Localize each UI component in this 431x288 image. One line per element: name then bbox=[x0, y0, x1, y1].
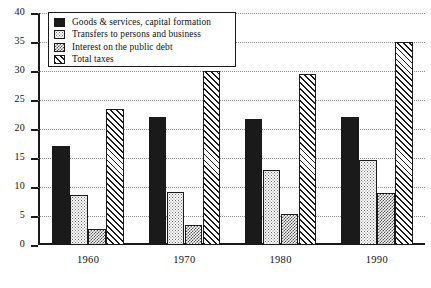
bar bbox=[167, 192, 185, 245]
legend: Goods & services, capital formationTrans… bbox=[48, 12, 236, 67]
bar bbox=[299, 74, 317, 245]
y-axis-tick-mark bbox=[31, 187, 38, 189]
y-axis-tick-mark bbox=[31, 158, 38, 160]
y-axis-tick-mark bbox=[31, 13, 38, 15]
y-axis-tick-label: 30 bbox=[15, 64, 25, 75]
bar bbox=[203, 71, 221, 245]
bar bbox=[341, 117, 359, 245]
legend-item: Total taxes bbox=[54, 54, 231, 66]
y-axis-tick-mark bbox=[31, 129, 38, 131]
bar bbox=[70, 195, 88, 245]
bar bbox=[263, 170, 281, 245]
legend-swatch-icon bbox=[54, 18, 65, 27]
bar bbox=[359, 160, 377, 245]
y-axis-tick-label: 20 bbox=[15, 122, 25, 133]
y-axis-tick-mark bbox=[31, 216, 38, 218]
y-axis-tick-label: 15 bbox=[15, 151, 25, 162]
x-axis-tick-label: 1980 bbox=[251, 254, 311, 265]
legend-item: Interest on the public debt bbox=[54, 41, 231, 53]
y-axis-tick-label: 5 bbox=[20, 209, 25, 220]
y-axis-tick-label: 40 bbox=[15, 6, 25, 17]
x-axis-tick-label: 1960 bbox=[58, 254, 118, 265]
bar bbox=[185, 225, 203, 245]
x-axis-tick-label: 1990 bbox=[347, 254, 407, 265]
legend-swatch-icon bbox=[54, 43, 65, 52]
bar-group bbox=[245, 13, 317, 245]
bar bbox=[52, 146, 70, 245]
bar bbox=[377, 193, 395, 245]
bar bbox=[395, 42, 413, 245]
legend-item: Goods & services, capital formation bbox=[54, 16, 231, 28]
y-axis-tick-label: 0 bbox=[20, 238, 25, 249]
y-axis-tick-mark bbox=[31, 100, 38, 102]
y-axis-tick-label: 10 bbox=[15, 180, 25, 191]
legend-item-label: Transfers to persons and business bbox=[72, 29, 201, 40]
legend-item-label: Goods & services, capital formation bbox=[72, 17, 211, 28]
legend-item-label: Interest on the public debt bbox=[72, 42, 173, 53]
x-axis-tick-label: 1970 bbox=[154, 254, 214, 265]
y-axis-tick-mark bbox=[31, 245, 38, 247]
bar bbox=[88, 229, 106, 245]
legend-swatch-icon bbox=[54, 30, 65, 39]
bar-group bbox=[341, 13, 413, 245]
y-axis-tick-mark bbox=[31, 71, 38, 73]
bar bbox=[281, 214, 299, 245]
bar bbox=[149, 117, 167, 245]
bar-chart: 4035302520151050 1960197019801990 Goods … bbox=[0, 0, 431, 288]
y-axis-tick-label: 35 bbox=[15, 35, 25, 46]
bar bbox=[245, 119, 263, 245]
y-axis-tick-label: 25 bbox=[15, 93, 25, 104]
legend-swatch-icon bbox=[54, 55, 65, 64]
legend-item-label: Total taxes bbox=[72, 54, 114, 65]
legend-item: Transfers to persons and business bbox=[54, 29, 231, 41]
bar bbox=[106, 109, 124, 245]
y-axis-tick-mark bbox=[31, 42, 38, 44]
